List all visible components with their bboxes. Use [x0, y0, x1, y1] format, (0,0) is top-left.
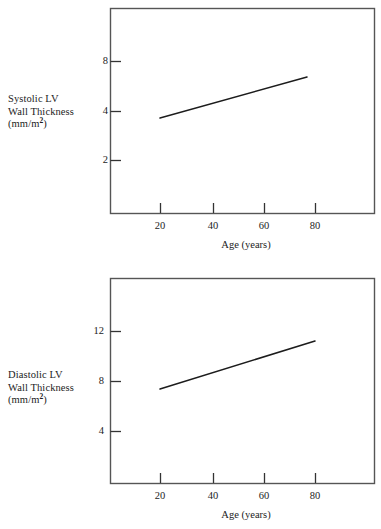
systolic-x-axis-title: Age (years) — [181, 239, 311, 250]
diastolic-y-axis-title-line1: Diastolic LV — [8, 369, 74, 382]
diastolic-x-axis-title: Age (years) — [181, 509, 311, 520]
systolic-units-suffix: ) — [43, 118, 47, 129]
chart-panel-systolic: 8 4 2 Systolic LV Wall Thickness (mm/m2)… — [0, 0, 381, 265]
diastolic-ytick-label-12: 12 — [82, 325, 104, 336]
systolic-ytick-label-8: 8 — [86, 55, 108, 66]
diastolic-units-prefix: (mm/m — [8, 394, 39, 405]
systolic-xtick-label-60: 60 — [251, 220, 277, 231]
systolic-xtick-label-40: 40 — [200, 220, 226, 231]
systolic-trend-line — [160, 77, 307, 118]
systolic-xtick-label-80: 80 — [302, 220, 328, 231]
systolic-y-axis-title: Systolic LV Wall Thickness (mm/m2) — [8, 93, 74, 131]
diastolic-trend-line — [160, 341, 315, 389]
diastolic-ytick-label-4: 4 — [82, 425, 104, 436]
diastolic-units-suffix: ) — [43, 394, 47, 405]
systolic-y-axis-title-units: (mm/m2) — [8, 118, 74, 131]
systolic-ytick-label-2: 2 — [86, 154, 108, 165]
systolic-xtick-label-20: 20 — [147, 220, 173, 231]
diastolic-xtick-label-40: 40 — [200, 490, 226, 501]
systolic-units-prefix: (mm/m — [8, 118, 39, 129]
systolic-plot-frame — [111, 9, 375, 214]
diastolic-xtick-label-60: 60 — [251, 490, 277, 501]
diastolic-ytick-label-8: 8 — [82, 375, 104, 386]
diastolic-xtick-label-20: 20 — [147, 490, 173, 501]
chart-panel-diastolic: 12 8 4 Diastolic LV Wall Thickness (mm/m… — [0, 265, 381, 529]
diastolic-y-axis-title-units: (mm/m2) — [8, 394, 74, 407]
systolic-ytick-label-4: 4 — [86, 105, 108, 116]
systolic-y-axis-title-line1: Systolic LV — [8, 93, 74, 106]
diastolic-plot-frame — [111, 279, 375, 484]
diastolic-y-axis-title: Diastolic LV Wall Thickness (mm/m2) — [8, 369, 74, 407]
diastolic-xtick-label-80: 80 — [302, 490, 328, 501]
